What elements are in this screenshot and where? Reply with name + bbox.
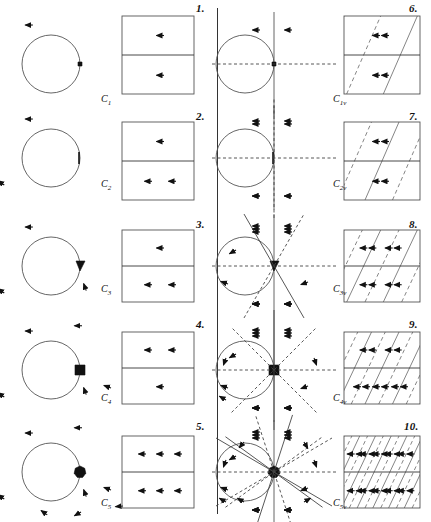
hatch-line [420,230,431,302]
hatch-line [283,332,317,404]
symmetry-circle-C2 [22,129,80,187]
group-label-c2: C2 [101,178,111,192]
hatch-line [310,16,344,94]
group-label-c5-text: C5 [101,497,111,508]
marker-filled-pentagon-C5 [74,466,86,477]
marker-small-filled-dot-C1 [78,62,82,66]
group-label-c2v: C2v [333,178,346,192]
group-label-c5: C5 [101,497,111,511]
panel-number-2: 2. [196,110,205,122]
field-arrow [84,388,87,395]
axis-arrow [220,498,226,502]
field-arrow [41,511,47,515]
group-label-c1v-text: C1v [333,93,346,104]
axis-arrow [301,282,308,285]
hatch-line [420,436,431,508]
panel-number-5: 5. [196,420,205,432]
panel-number-1: 1. [196,2,205,14]
axis-arrow [304,498,310,502]
group-label-c3v-text: C3v [333,283,346,294]
group-label-c3-text: C3 [101,283,111,294]
group-label-c2v-text: C2v [333,178,346,189]
group-label-c4v-text: C4v [333,392,346,403]
panel-number-3: 3. [196,218,205,230]
symmetry-circle-C3 [22,237,80,295]
group-label-c1: C1 [101,93,111,107]
axis-arrow [230,354,236,358]
hatch-line [273,16,307,94]
hatch-line [420,332,431,404]
axis-arrow [230,456,236,460]
panel-number-7: 7. [409,110,418,122]
symmetry-circle-C1 [22,35,80,93]
group-label-c4-text: C4 [101,392,111,403]
axis-arrow [220,396,226,400]
marker-filled-triangle-C3 [76,261,85,271]
panel-number-8: 8. [409,218,418,230]
plate-canvas [0,0,431,522]
group-label-c5v-text: C5v [333,497,346,508]
axis-arrow [223,460,226,467]
panel-number-6: 6. [409,2,418,14]
axis-arrow [230,250,236,254]
field-arrow [104,385,111,388]
field-arrow [75,512,81,516]
panel-number-9: 9. [409,318,418,330]
hatch-line [420,16,431,94]
group-label-c5v: C5v [333,497,346,511]
hatch-line [237,16,271,94]
group-label-c4v: C4v [333,392,346,406]
field-arrow [0,289,4,293]
group-label-c2-text: C2 [101,178,111,189]
field-arrow [104,487,111,490]
axis-arrow [314,358,317,365]
field-arrow [0,393,4,397]
figure-plate: 1. 2. 3. 4. 5. 6. 7. 8. 9. 10. C1 C2 C3 … [0,0,431,522]
field-arrow [0,181,4,185]
marker-filled-square-C4 [75,365,85,375]
axis-arrow [314,460,317,467]
axis-arrow [304,442,308,448]
axis-arrow [301,386,308,389]
field-arrow [0,495,4,499]
field-arrow [84,284,87,291]
hatch-line [296,332,330,404]
group-label-c4: C4 [101,392,111,406]
group-label-c1v: C1v [333,93,346,107]
hatch-line [283,122,317,200]
axis-arrow [223,358,226,365]
panel-number-10: 10. [404,420,418,432]
group-label-c3: C3 [101,283,111,297]
field-arrow [84,490,87,497]
symmetry-circle-C4 [22,341,80,399]
group-label-c3v: C3v [333,283,346,297]
hatch-line [420,122,431,200]
symmetry-circle-C5 [22,443,80,501]
group-label-c1-text: C1 [101,93,111,104]
panel-number-4: 4. [196,318,205,330]
